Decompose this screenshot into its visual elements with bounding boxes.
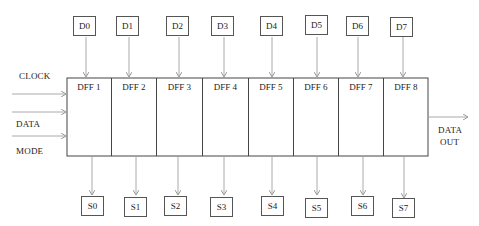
clock-label: CLOCK (19, 71, 51, 81)
input-d0: D0 (73, 16, 96, 36)
flipflop-dff1: DFF 1 (67, 78, 112, 156)
data-label: DATA (16, 119, 40, 129)
flipflop-dff5: DFF 5 (249, 78, 294, 156)
output-s4: S4 (261, 196, 284, 216)
flipflop-dff6: DFF 6 (294, 78, 339, 156)
input-d5: D5 (305, 15, 328, 35)
flipflop-label: DFF 4 (203, 82, 248, 92)
flipflop-dff7: DFF 7 (339, 78, 384, 156)
flipflop-label: DFF 7 (339, 82, 383, 92)
input-d1: D1 (116, 16, 139, 36)
flipflop-label: DFF 1 (67, 82, 111, 92)
output-s0: S0 (81, 196, 104, 216)
output-s3: S3 (210, 197, 233, 217)
input-d2: D2 (166, 16, 189, 36)
mode-label: MODE (16, 146, 43, 156)
flipflop-label: DFF 6 (294, 82, 338, 92)
flipflop-dff8: DFF 8 (384, 78, 428, 156)
output-s2: S2 (164, 196, 187, 216)
data-out-label-line1: DATA (438, 125, 462, 135)
input-d4: D4 (260, 16, 283, 36)
input-d6: D6 (346, 16, 369, 36)
output-s5: S5 (305, 198, 328, 218)
output-s1: S1 (124, 197, 147, 217)
flipflop-dff2: DFF 2 (112, 78, 157, 156)
output-s7: S7 (392, 198, 415, 218)
input-d3: D3 (211, 16, 234, 36)
flipflop-dff4: DFF 4 (203, 78, 249, 156)
flipflop-label: DFF 2 (112, 82, 156, 92)
data-out-label-line2: OUT (440, 137, 459, 147)
output-s6: S6 (351, 196, 374, 216)
flipflop-dff3: DFF 3 (157, 78, 203, 156)
flipflop-label: DFF 8 (384, 82, 428, 92)
flipflop-label: DFF 5 (249, 82, 293, 92)
input-d7: D7 (390, 17, 413, 37)
flipflop-label: DFF 3 (157, 82, 202, 92)
